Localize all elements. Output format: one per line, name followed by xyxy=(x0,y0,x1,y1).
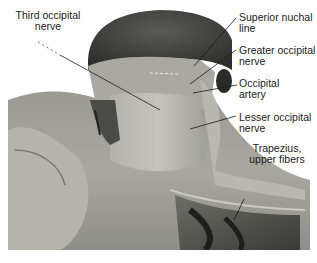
label-line: nerve xyxy=(239,56,315,67)
label-third-occipital-nerve: Third occipital nerve xyxy=(8,10,88,32)
label-occipital-artery: Occipital artery xyxy=(239,78,279,100)
label-line: upper fibers xyxy=(238,154,316,165)
label-line: artery xyxy=(239,89,279,100)
label-trapezius-upper-fibers: Trapezius, upper fibers xyxy=(238,143,316,165)
label-greater-occipital-nerve: Greater occipital nerve xyxy=(239,45,315,67)
label-superior-nuchal-line: Superior nuchal line xyxy=(239,12,313,34)
anatomy-figure: Third occipital nerve Superior nuchal li… xyxy=(0,0,317,263)
label-line: nerve xyxy=(8,21,88,32)
label-line: line xyxy=(239,23,313,34)
label-line: nerve xyxy=(239,123,311,134)
label-lesser-occipital-nerve: Lesser occipital nerve xyxy=(239,112,311,134)
